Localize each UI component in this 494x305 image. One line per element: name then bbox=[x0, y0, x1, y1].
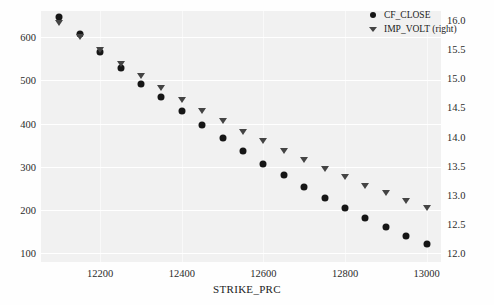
gridline-vertical bbox=[263, 11, 264, 262]
y-tick-label-left: 200 bbox=[20, 205, 36, 216]
data-point-imp-volt bbox=[402, 198, 410, 204]
y-tick-label-right: 13.5 bbox=[447, 160, 465, 171]
y-tick-label-right: 15.5 bbox=[447, 43, 465, 54]
y-tick-label-left: 600 bbox=[20, 31, 36, 42]
gridline-vertical bbox=[182, 11, 183, 262]
data-point-cf-close bbox=[178, 107, 185, 114]
data-point-cf-close bbox=[342, 205, 349, 212]
legend-label: IMP_VOLT (right) bbox=[384, 24, 457, 34]
x-tick-label: 12400 bbox=[169, 268, 195, 279]
data-point-cf-close bbox=[260, 160, 267, 167]
x-tick-label: 12600 bbox=[250, 268, 276, 279]
legend-item-imp-volt: IMP_VOLT (right) bbox=[366, 23, 457, 35]
circle-marker-icon bbox=[366, 12, 380, 18]
data-point-imp-volt bbox=[117, 61, 125, 67]
y-tick-label-right: 13.0 bbox=[447, 189, 465, 200]
gridline-vertical bbox=[427, 11, 428, 262]
data-point-cf-close bbox=[199, 121, 206, 128]
data-point-imp-volt bbox=[96, 47, 104, 53]
x-axis-title: STRIKE_PRC bbox=[0, 283, 494, 295]
data-point-imp-volt bbox=[423, 205, 431, 211]
x-tick-label: 13000 bbox=[414, 268, 440, 279]
plot-panel bbox=[41, 11, 441, 262]
y-tick-label-right: 12.5 bbox=[447, 219, 465, 230]
y-tick-label-right: 15.0 bbox=[447, 73, 465, 84]
data-point-imp-volt bbox=[178, 97, 186, 103]
chart-figure: 100200300400500600 12.012.513.013.514.01… bbox=[0, 0, 494, 305]
data-point-cf-close bbox=[403, 232, 410, 239]
data-point-cf-close bbox=[219, 134, 226, 141]
data-point-cf-close bbox=[382, 224, 389, 231]
data-point-imp-volt bbox=[361, 183, 369, 189]
data-point-imp-volt bbox=[300, 157, 308, 163]
data-point-cf-close bbox=[138, 80, 145, 87]
data-point-imp-volt bbox=[198, 108, 206, 114]
y-tick-label-left: 500 bbox=[20, 75, 36, 86]
data-point-imp-volt bbox=[382, 190, 390, 196]
gridline-vertical bbox=[345, 11, 346, 262]
data-point-cf-close bbox=[321, 194, 328, 201]
data-point-imp-volt bbox=[137, 73, 145, 79]
data-point-imp-volt bbox=[219, 118, 227, 124]
legend-item-cf-close: CF_CLOSE bbox=[366, 9, 457, 21]
y-axis-left: 100200300400500600 bbox=[0, 0, 36, 305]
y-axis-right: 12.012.513.013.514.014.515.015.516.0 bbox=[447, 0, 493, 305]
y-tick-label-left: 400 bbox=[20, 118, 36, 129]
data-point-cf-close bbox=[240, 148, 247, 155]
data-point-cf-close bbox=[423, 240, 430, 247]
legend: CF_CLOSE IMP_VOLT (right) bbox=[366, 9, 457, 37]
legend-label: CF_CLOSE bbox=[384, 10, 430, 20]
data-point-imp-volt bbox=[55, 20, 63, 26]
y-tick-label-left: 300 bbox=[20, 161, 36, 172]
y-tick-label-right: 12.0 bbox=[447, 248, 465, 259]
x-axis: 1220012400126001280013000 bbox=[0, 268, 494, 282]
data-point-cf-close bbox=[301, 184, 308, 191]
x-tick-label: 12800 bbox=[332, 268, 358, 279]
data-point-imp-volt bbox=[259, 138, 267, 144]
data-point-imp-volt bbox=[321, 166, 329, 172]
data-point-cf-close bbox=[362, 215, 369, 222]
x-tick-label: 12200 bbox=[87, 268, 113, 279]
data-point-imp-volt bbox=[76, 34, 84, 40]
data-point-imp-volt bbox=[239, 129, 247, 135]
data-point-cf-close bbox=[280, 172, 287, 179]
y-tick-label-right: 14.5 bbox=[447, 102, 465, 113]
data-point-imp-volt bbox=[157, 85, 165, 91]
y-tick-label-left: 100 bbox=[20, 248, 36, 259]
data-point-imp-volt bbox=[280, 148, 288, 154]
y-tick-label-right: 14.0 bbox=[447, 131, 465, 142]
data-point-cf-close bbox=[158, 94, 165, 101]
data-point-imp-volt bbox=[341, 174, 349, 180]
triangle-down-marker-icon bbox=[366, 27, 380, 32]
